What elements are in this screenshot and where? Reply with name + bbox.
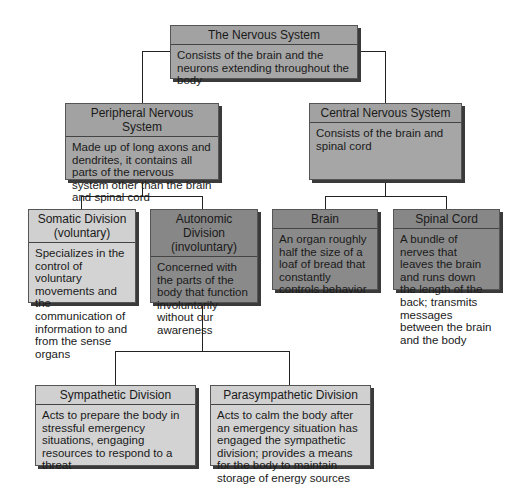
node-title: Brain: [273, 210, 377, 229]
node-peripheral-nervous-system: Peripheral Nervous System Made up of lon…: [65, 103, 219, 180]
connector-parasympathetic-v: [289, 351, 290, 385]
node-description: Acts to calm the body after an emergency…: [211, 405, 370, 489]
connector-root-left-v: [142, 51, 143, 103]
node-title: Parasympathetic Division: [211, 386, 370, 405]
node-sympathetic-division: Sympathetic Division Acts to prepare the…: [35, 385, 196, 466]
connector-central-v: [385, 180, 386, 196]
node-description: Specializes in the control of voluntary …: [29, 243, 135, 364]
connector-root-right-v: [385, 51, 386, 103]
node-description: Consists of the brain and spinal cord: [310, 123, 461, 156]
node-spinal-cord: Spinal Cord A bundle of nerves that leav…: [393, 209, 500, 290]
connector-root-right-h: [358, 51, 386, 52]
node-title: Autonomic Division (involuntary): [151, 210, 257, 257]
node-description: Consists of the brain and the neurons ex…: [171, 45, 357, 91]
node-description: A bundle of nerves that leaves the brain…: [394, 229, 499, 350]
node-title: Sympathetic Division: [36, 386, 195, 405]
node-description: Acts to prepare the body in stressful em…: [36, 405, 195, 476]
node-central-nervous-system: Central Nervous System Consists of the b…: [309, 103, 462, 180]
connector-brain-v: [325, 196, 326, 209]
connector-spinal-v: [446, 196, 447, 209]
node-parasympathetic-division: Parasympathetic Division Acts to calm th…: [210, 385, 371, 466]
node-brain: Brain An organ roughly half the size of …: [272, 209, 378, 290]
node-somatic-division: Somatic Division (voluntary) Specializes…: [28, 209, 136, 303]
node-description: An organ roughly half the size of a loaf…: [273, 229, 377, 300]
node-title: Peripheral Nervous System: [66, 104, 218, 137]
node-title: The Nervous System: [171, 26, 357, 45]
node-title: Central Nervous System: [310, 104, 461, 123]
node-description: Made up of long axons and dendrites, it …: [66, 137, 218, 208]
node-autonomic-division: Autonomic Division (involuntary) Concern…: [150, 209, 258, 303]
connector-root-left-h: [142, 51, 170, 52]
node-title: Somatic Division (voluntary): [29, 210, 135, 243]
connector-central-h: [325, 196, 447, 197]
connector-autonomic-h: [115, 351, 290, 352]
node-nervous-system: The Nervous System Consists of the brain…: [170, 25, 358, 79]
node-title: Spinal Cord: [394, 210, 499, 229]
node-description: Concerned with the parts of the body tha…: [151, 257, 257, 341]
